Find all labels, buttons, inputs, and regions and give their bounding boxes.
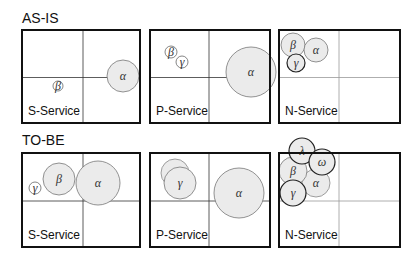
bubble-α: α: [226, 47, 276, 97]
bubble-label: α: [313, 176, 320, 190]
bubble-β: β: [165, 45, 177, 59]
bubble-label: α: [120, 69, 127, 83]
bubble-label: β: [289, 38, 296, 52]
bubble-α: α: [107, 60, 139, 92]
panel-n-service: αβλωγN-Service: [279, 138, 400, 247]
bubble-label: α: [313, 43, 320, 57]
bubble-α: α: [214, 168, 264, 218]
bubble-β: β: [43, 163, 75, 195]
bubble-β: β: [53, 79, 63, 93]
bubble-label: γ: [178, 176, 183, 190]
service-label: N-Service: [285, 104, 338, 118]
bubble-label: β: [167, 45, 174, 59]
panel-n-service: βαγN-Service: [279, 30, 400, 123]
bubble-γ: γ: [287, 54, 305, 72]
bubble-label: β: [55, 172, 62, 186]
bubble-label: β: [54, 79, 61, 93]
bubble-label: β: [289, 164, 296, 178]
bubble-α: α: [76, 161, 120, 205]
bubble-label: γ: [291, 186, 296, 200]
panel-s-service: βαS-Service: [22, 30, 140, 123]
bubble-γ: γ: [29, 181, 41, 195]
bubble-label: α: [236, 186, 243, 200]
service-portfolio-diagram: βαS-ServiceβγαP-ServiceβαγN-ServiceγβαS-…: [0, 0, 419, 259]
bubble-label: γ: [180, 55, 185, 69]
bubble-label: γ: [33, 181, 38, 195]
bubble-β: β: [281, 33, 305, 57]
panel-p-service: γαP-Service: [150, 153, 270, 247]
panel-p-service: βγαP-Service: [150, 30, 276, 123]
service-label: S-Service: [28, 228, 80, 242]
bubble-label: γ: [294, 56, 299, 70]
bubble-γ: γ: [164, 167, 196, 199]
bubble-label: α: [248, 65, 255, 79]
bubble-γ: γ: [176, 55, 188, 69]
service-label: P-Service: [156, 104, 208, 118]
service-label: S-Service: [28, 104, 80, 118]
bubble-γ: γ: [280, 180, 306, 206]
bubble-label: ω: [318, 155, 326, 169]
service-label: N-Service: [285, 228, 338, 242]
bubble-α: α: [304, 38, 328, 62]
service-label: P-Service: [156, 228, 208, 242]
panel-s-service: γβαS-Service: [22, 153, 140, 247]
bubble-label: α: [95, 176, 102, 190]
bubble-label: λ: [298, 144, 304, 158]
